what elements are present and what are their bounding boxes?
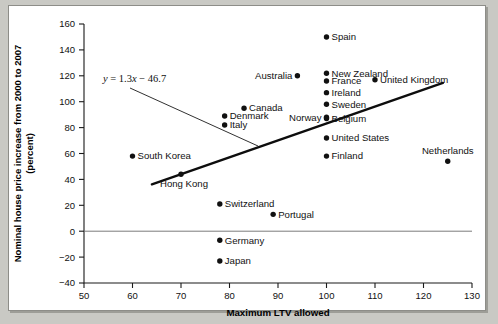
trend-line	[152, 83, 443, 184]
data-point	[324, 153, 329, 158]
tick-labels: −40−200204060801001201401605060708090100…	[59, 18, 480, 301]
chart-container: −40−200204060801001201401605060708090100…	[0, 0, 498, 324]
y-tick-label: 80	[64, 122, 75, 133]
data-point	[295, 73, 300, 78]
x-tick-label: 60	[127, 290, 138, 301]
data-point-label: Belgium	[332, 113, 367, 124]
data-point-label: Netherlands	[422, 145, 474, 156]
y-tick-label: 0	[70, 226, 75, 237]
regression-equation: y = 1.3x − 46.7	[102, 73, 166, 84]
scatter-chart: −40−200204060801001201401605060708090100…	[0, 0, 498, 324]
data-point-label: Spain	[332, 31, 357, 42]
data-point	[178, 172, 183, 177]
x-tick-label: 70	[176, 290, 187, 301]
data-point	[445, 159, 450, 164]
y-tick-label: 160	[59, 18, 75, 29]
data-point	[217, 258, 222, 263]
data-point	[130, 153, 135, 158]
regression-line	[152, 83, 443, 184]
x-tick-label: 120	[416, 290, 432, 301]
data-point-label: Finland	[332, 150, 363, 161]
y-tick-label: 120	[59, 70, 75, 81]
y-tick-label: 140	[59, 44, 75, 55]
y-tick-label: 40	[64, 174, 75, 185]
data-point	[324, 135, 329, 140]
y-tick-label: −20	[59, 252, 75, 263]
data-point	[222, 122, 227, 127]
data-point-label: Germany	[225, 235, 265, 246]
data-point	[222, 113, 227, 118]
data-point-label: Australia	[255, 70, 293, 81]
x-tick-label: 50	[79, 290, 90, 301]
y-axis-title: Nominal house price increase from 2000 t…	[12, 45, 35, 263]
data-point	[217, 238, 222, 243]
y-tick-label: −40	[59, 277, 75, 288]
data-point-label: France	[332, 75, 362, 86]
x-tick-label: 110	[367, 290, 382, 301]
data-point-label: Switzerland	[225, 198, 275, 209]
data-point	[217, 201, 222, 206]
data-point-label: United States	[332, 132, 390, 143]
y-tick-label: 100	[59, 96, 75, 107]
data-point	[324, 102, 329, 107]
data-point	[324, 71, 329, 76]
y-tick-label: 60	[64, 148, 75, 159]
data-point	[372, 77, 377, 82]
data-point-label: Norway	[289, 112, 322, 123]
data-point-label: Japan	[225, 255, 251, 266]
screenshot-root: −40−200204060801001201401605060708090100…	[0, 0, 498, 324]
data-point-label: Sweden	[332, 99, 367, 110]
x-tick-label: 130	[464, 290, 480, 301]
data-point-label: Ireland	[332, 87, 361, 98]
data-point-label: Hong Kong	[160, 178, 208, 189]
data-point	[324, 115, 329, 120]
data-point	[324, 78, 329, 83]
data-point-label: Portugal	[278, 209, 314, 220]
data-point	[270, 212, 275, 217]
x-tick-label: 100	[319, 290, 335, 301]
x-axis-title: Maximum LTV allowed	[226, 307, 329, 318]
data-point-label: Italy	[230, 119, 248, 130]
data-point-label: South Korea	[138, 150, 192, 161]
x-tick-label: 80	[224, 290, 235, 301]
data-point	[324, 34, 329, 39]
x-tick-label: 90	[273, 290, 284, 301]
data-point-label: United Kingdom	[380, 74, 448, 85]
data-point	[324, 90, 329, 95]
y-tick-label: 20	[64, 200, 75, 211]
